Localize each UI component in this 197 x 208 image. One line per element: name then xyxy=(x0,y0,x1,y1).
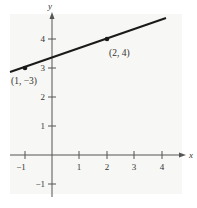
y-tick-label: 4 xyxy=(41,34,46,44)
x-tick-label: −1 xyxy=(16,162,26,172)
y-tick-label: 3 xyxy=(41,63,46,73)
data-point-a xyxy=(23,66,28,71)
x-tick-label: 2 xyxy=(105,162,110,172)
x-axis-arrow-icon xyxy=(179,153,186,158)
x-axis-label: x xyxy=(188,150,193,160)
plot-background xyxy=(10,14,182,194)
x-tick-label: 1 xyxy=(77,162,82,172)
y-axis-label: y xyxy=(47,1,52,11)
y-tick-label: −1 xyxy=(35,179,45,189)
y-tick-label: 2 xyxy=(41,92,46,102)
data-point-b xyxy=(105,37,110,42)
y-tick-label: 1 xyxy=(41,121,46,131)
x-tick-label: 4 xyxy=(160,162,165,172)
point-b-label: (2, 4) xyxy=(109,48,130,59)
line-chart: x −1 1 2 3 4 y 4 3 2 1 −1 (1, −3) (2, 4) xyxy=(0,0,197,208)
point-a-label: (1, −3) xyxy=(11,76,37,87)
x-tick-label: 3 xyxy=(132,162,137,172)
